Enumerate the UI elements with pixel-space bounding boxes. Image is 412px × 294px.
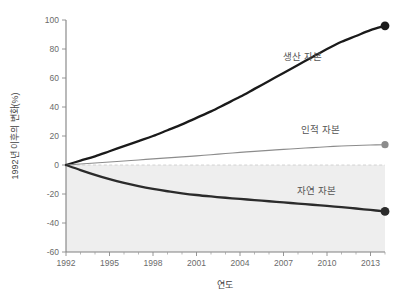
x-tick-label: 2001: [187, 258, 206, 268]
y-tick-label: -20: [47, 189, 60, 199]
series-annotation-3: 자연 자본: [297, 185, 336, 196]
x-tick-label: 2013: [361, 258, 380, 268]
series-endpoint-marker-2: [381, 141, 388, 148]
y-tick-label: -60: [47, 247, 60, 257]
chart-container: 100806040200-20-40-60 199219951998200120…: [0, 0, 412, 294]
y-tick-label: -40: [47, 218, 60, 228]
y-tick-label: 60: [50, 73, 60, 83]
y-tick-label: 80: [50, 44, 60, 54]
series-annotation-1: 생산 자본: [283, 51, 322, 62]
x-tick-label: 2010: [318, 258, 337, 268]
negative-region-shading: [66, 165, 385, 252]
series-endpoint-marker-1: [381, 21, 390, 30]
series-endpoint-marker-3: [381, 207, 390, 216]
y-tick-label: 20: [50, 131, 60, 141]
x-tick-label: 1995: [100, 258, 119, 268]
x-tick-label: 1998: [144, 258, 163, 268]
x-tick-label: 2004: [231, 258, 250, 268]
series-annotation-2: 인적 자본: [301, 124, 340, 135]
y-tick-label: 100: [45, 15, 59, 25]
y-axis-title: 1992년 이후의 변화(%): [10, 92, 20, 179]
line-chart: 100806040200-20-40-60 199219951998200120…: [0, 0, 412, 294]
x-tick-label: 2007: [274, 258, 293, 268]
x-axis-title: 연도: [217, 280, 233, 290]
y-tick-label: 40: [50, 102, 60, 112]
x-tick-label: 1992: [57, 258, 76, 268]
y-tick-label: 0: [54, 160, 59, 170]
